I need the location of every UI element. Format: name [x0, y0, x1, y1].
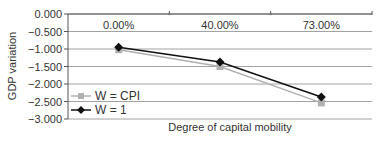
y-tick-label: −0.500 — [28, 26, 62, 38]
legend-label-w-cpi: W = CPI — [95, 89, 140, 103]
x-axis-title: Degree of capital mobility — [168, 121, 292, 133]
category-label: 73.00% — [303, 19, 341, 31]
y-tick-label: −2.000 — [28, 78, 62, 90]
legend-item-w-1: W = 1 — [71, 103, 127, 117]
category-label: 40.00% — [201, 19, 239, 31]
y-tick-label: −2.500 — [28, 96, 62, 108]
category-label: 0.00% — [103, 19, 134, 31]
y-tick-label: −3.000 — [28, 113, 62, 125]
legend: W = CPI W = 1 — [71, 89, 140, 117]
category-labels: 0.00%40.00%73.00% — [103, 19, 340, 31]
y-axis-title: GDP variation — [6, 32, 18, 100]
y-tick-label: −1.500 — [28, 61, 62, 73]
diamond-marker-icon — [77, 106, 85, 114]
square-marker-icon — [78, 93, 84, 99]
series-lines — [114, 43, 326, 107]
y-tick-label: −1.000 — [28, 43, 62, 55]
line-chart: 0.000−0.500−1.000−1.500−2.000−2.500−3.00… — [0, 0, 388, 142]
y-axis-ticks: 0.000−0.500−1.000−1.500−2.000−2.500−3.00… — [28, 8, 68, 125]
y-tick-label: 0.000 — [34, 8, 62, 20]
legend-item-w-cpi: W = CPI — [71, 89, 140, 103]
legend-label-w-1: W = 1 — [95, 103, 127, 117]
